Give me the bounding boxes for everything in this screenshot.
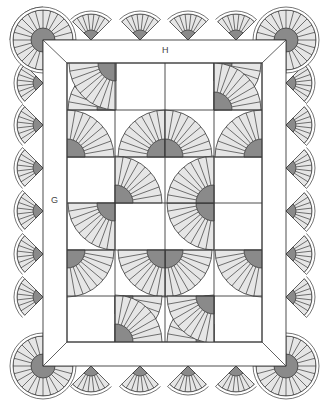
fan-center (286, 204, 296, 218)
fan-center (33, 161, 43, 175)
fan-center (181, 30, 195, 40)
fan-center (33, 204, 43, 218)
fan-center (84, 30, 98, 40)
fan-center (133, 366, 147, 376)
fan-center (286, 247, 296, 261)
fan-center (33, 76, 43, 90)
fan-center (33, 290, 43, 304)
border-label-h: H (162, 45, 169, 55)
fan-center (229, 366, 243, 376)
fan-center (286, 161, 296, 175)
fan-center (84, 366, 98, 376)
fan-center (286, 76, 296, 90)
fan-center (286, 118, 296, 132)
fan-center (133, 30, 147, 40)
border-label-g: G (51, 195, 58, 205)
quilt-diagram: H G (0, 0, 327, 408)
fan-center (181, 366, 195, 376)
fan-center (229, 30, 243, 40)
fan-center (33, 247, 43, 261)
fan-center (33, 118, 43, 132)
fan-center (286, 290, 296, 304)
quilt-svg (0, 0, 327, 408)
